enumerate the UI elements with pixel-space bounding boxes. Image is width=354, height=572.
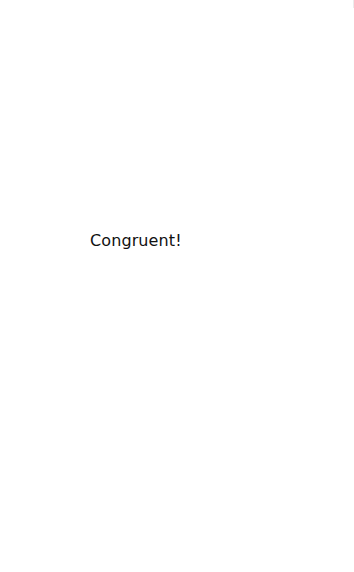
result-message: Congruent! — [90, 231, 182, 250]
page: Congruent! — [0, 0, 354, 572]
